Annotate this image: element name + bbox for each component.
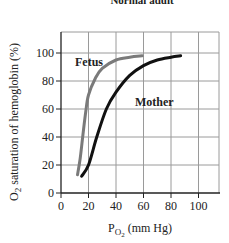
y-tick-label: 40 xyxy=(42,130,54,144)
y-axis-label: O2 saturation of hemoglobin (%) xyxy=(7,43,23,201)
y-tick-label: 100 xyxy=(36,46,54,60)
mother-series-label: Mother xyxy=(135,95,174,109)
x-tick-label: 40 xyxy=(110,199,122,213)
oxygen-dissociation-chart: Normal adult 020406080100 020406080100 F… xyxy=(0,0,229,243)
x-axis-ticks: 020406080100 xyxy=(58,193,208,213)
y-tick-label: 80 xyxy=(42,74,54,88)
fetus-series-label: Fetus xyxy=(75,55,103,69)
data-series xyxy=(78,56,181,176)
y-tick-label: 60 xyxy=(42,102,54,116)
y-tick-label: 0 xyxy=(48,186,54,200)
x-tick-label: 100 xyxy=(190,199,208,213)
x-tick-label: 20 xyxy=(83,199,95,213)
y-axis-ticks: 020406080100 xyxy=(36,46,61,200)
chart-title: Normal adult xyxy=(110,0,174,6)
x-tick-label: 80 xyxy=(165,199,177,213)
x-tick-label: 0 xyxy=(58,199,64,213)
x-axis-label: PO2 (mm Hg) xyxy=(108,221,172,239)
x-tick-label: 60 xyxy=(138,199,150,213)
y-tick-label: 20 xyxy=(42,158,54,172)
